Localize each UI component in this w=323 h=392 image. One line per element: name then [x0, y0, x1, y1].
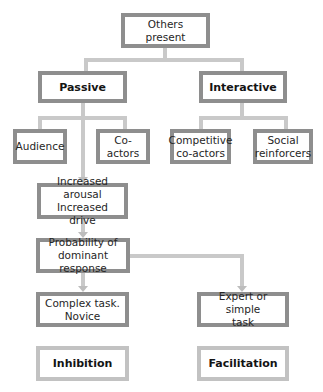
node-label: Passive — [59, 81, 106, 94]
node-competitive-co-actors: Competitive co-actors — [170, 129, 231, 164]
node-label: Others present — [127, 18, 204, 44]
node-passive: Passive — [38, 71, 127, 103]
node-label-line1: Increased arousal — [43, 175, 122, 201]
node-label-line2: dominant response — [42, 249, 124, 275]
connector-to-interactive — [240, 58, 244, 72]
node-probability-dominant-response: Probability of dominant response — [36, 238, 130, 273]
connector-root-horizontal — [84, 58, 244, 62]
connector-passive-trunk — [81, 102, 85, 178]
node-audience: Audience — [13, 129, 67, 164]
node-label-line1: Expert or simple — [203, 290, 283, 316]
social-facilitation-diagram: Others present Passive Interactive Audie… — [0, 0, 323, 392]
node-social-reinforcers: Social reinforcers — [253, 129, 313, 164]
node-label: Interactive — [209, 81, 277, 94]
node-interactive: Interactive — [199, 71, 287, 103]
node-inhibition: Inhibition — [36, 346, 129, 381]
node-co-actors: Co-actors — [96, 129, 150, 164]
node-label: Co-actors — [102, 134, 144, 160]
node-label-line1: Competitive — [169, 134, 233, 147]
node-label-line2: Novice — [65, 310, 101, 323]
connector-to-social — [284, 116, 288, 130]
node-facilitation: Facilitation — [197, 346, 289, 381]
connector-to-co-actors — [123, 116, 127, 130]
connector-probability-horizontal — [130, 254, 244, 258]
node-label: Audience — [16, 140, 65, 153]
connector-to-audience — [38, 116, 42, 130]
node-label-line2: reinforcers — [255, 147, 311, 160]
node-label-line1: Social — [267, 134, 298, 147]
connector-probability-to-complex — [81, 273, 85, 287]
node-increased-arousal: Increased arousal Increased drive — [37, 183, 128, 219]
node-others-present: Others present — [121, 13, 210, 48]
node-label-line2: Increased drive — [43, 201, 122, 227]
connector-interactive-horizontal — [199, 116, 288, 120]
node-complex-task-novice: Complex task. Novice — [36, 292, 129, 327]
node-expert-simple-task: Expert or simple task — [197, 292, 289, 327]
connector-to-passive — [84, 58, 88, 72]
node-label: Facilitation — [208, 357, 277, 370]
node-label: Inhibition — [53, 357, 113, 370]
node-label-line2: task — [232, 316, 254, 329]
connector-probability-to-expert — [240, 254, 244, 287]
node-label-line1: Probability of — [49, 236, 118, 249]
connector-to-competitive — [199, 116, 203, 130]
node-label-line1: Complex task. — [45, 297, 120, 310]
node-label-line2: co-actors — [176, 147, 225, 160]
